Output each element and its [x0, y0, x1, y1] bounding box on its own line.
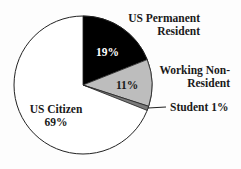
label-citizen-line1: US Citizen: [24, 103, 88, 116]
student-leader-line: [148, 107, 166, 108]
label-working-line2: Resident: [156, 77, 230, 90]
label-student: Student 1%: [170, 101, 228, 114]
label-perm-resident: US Permanent Resident: [126, 12, 200, 38]
label-perm-resident-pct: 19%: [96, 46, 119, 59]
label-perm-resident-line1: US Permanent: [126, 12, 200, 25]
label-working-pct: 11%: [116, 79, 138, 92]
pie-chart: US Permanent Resident 19% Working Non- R…: [0, 0, 241, 169]
label-citizen-pct: 69%: [24, 116, 88, 129]
label-working-line1: Working Non-: [156, 64, 230, 77]
label-perm-resident-line2: Resident: [126, 25, 200, 38]
label-citizen: US Citizen 69%: [24, 103, 88, 129]
label-working: Working Non- Resident: [156, 64, 230, 90]
